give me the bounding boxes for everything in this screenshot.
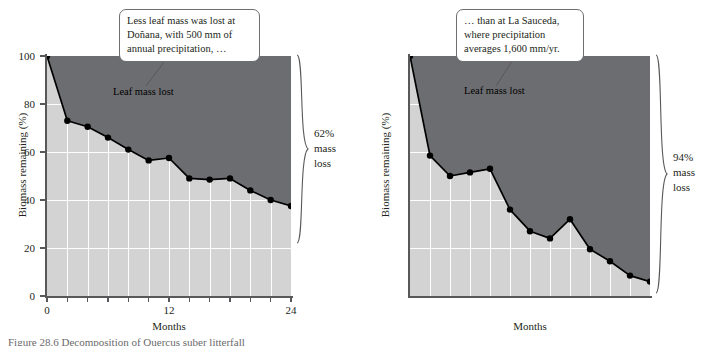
plot-area-la-sauceda <box>410 56 650 296</box>
y-axis-tick-label: 100 <box>5 51 35 62</box>
y-axis-tick <box>40 55 45 56</box>
figure-caption: Figure 28.6 Decomposition of Quercus sub… <box>8 336 720 346</box>
leaf-mass-lost-label-la-sauceda: Leaf mass lost <box>464 85 525 96</box>
y-axis-tick <box>40 103 45 104</box>
x-axis-title-donana: Months <box>47 320 291 332</box>
mass-loss-brace-donana <box>295 54 311 244</box>
callout-line-2: where precipitation <box>464 28 576 42</box>
x-axis-tick <box>168 297 169 302</box>
mass-loss-label-la-sauceda: 94% mass loss <box>673 150 695 195</box>
y-axis-tick <box>40 295 45 296</box>
mass-loss-line-3: loss <box>314 156 336 171</box>
x-axis-tick <box>229 297 230 302</box>
x-axis-tick <box>46 297 47 302</box>
callout-la-sauceda: … than at La Sauceda, where precipitatio… <box>456 9 584 62</box>
x-axis-tick <box>270 297 271 302</box>
callout-line-3: averages 1,600 mm/yr. <box>464 42 576 56</box>
mass-loss-line-1: 94% <box>673 150 695 165</box>
mass-loss-line-2: mass <box>314 141 336 156</box>
x-axis-tick <box>128 297 129 302</box>
callout-line-2: Doñana, with 500 mm of <box>127 28 252 42</box>
x-axis-tick <box>107 297 108 302</box>
callout-line-3: annual precipitation, … <box>127 42 252 56</box>
callout-line-1: … than at La Sauceda, <box>464 14 576 28</box>
y-axis-tick <box>40 247 45 248</box>
x-axis-tick <box>189 297 190 302</box>
chart-panel-la-sauceda: 020406080100 01224 Biomass remaining (%)… <box>360 0 720 346</box>
y-axis-tick-label: 0 <box>5 291 35 302</box>
y-axis-la-sauceda <box>408 54 410 298</box>
callout-donana: Less leaf mass was lost at Doñana, with … <box>119 9 260 62</box>
x-axis-tick <box>209 297 210 302</box>
x-axis-tick <box>250 297 251 302</box>
x-axis-tick-label: 12 <box>149 305 189 316</box>
x-axis-tick <box>67 297 68 302</box>
mass-loss-line-3: loss <box>673 180 695 195</box>
x-axis-tick-label: 0 <box>27 305 67 316</box>
figure-container: 020406080100 01224 Biomass remaining (%)… <box>0 0 720 346</box>
x-axis-tick <box>87 297 88 302</box>
x-axis-la-sauceda <box>408 296 652 298</box>
mass-loss-label-donana: 62% mass loss <box>314 126 336 171</box>
y-axis-title-la-sauceda: Biomass remaining (%) <box>379 85 391 245</box>
mass-loss-brace-la-sauceda <box>654 54 670 294</box>
y-axis-title-donana: Biomass remaining (%) <box>16 85 28 245</box>
leaf-mass-lost-label-donana: Leaf mass lost <box>113 86 174 97</box>
x-axis-tick <box>148 297 149 302</box>
x-axis-tick-label: 24 <box>271 305 311 316</box>
y-axis-tick <box>40 199 45 200</box>
callout-line-1: Less leaf mass was lost at <box>127 14 252 28</box>
y-axis-donana <box>45 54 47 298</box>
mass-loss-line-2: mass <box>673 165 695 180</box>
x-axis-tick <box>290 297 291 302</box>
series-biomass-remaining-la-sauceda <box>410 56 650 296</box>
chart-panel-donana: 020406080100 01224 Biomass remaining (%)… <box>0 0 360 346</box>
mass-loss-line-1: 62% <box>314 126 336 141</box>
x-axis-title-la-sauceda: Months <box>410 320 650 332</box>
y-axis-tick <box>40 151 45 152</box>
